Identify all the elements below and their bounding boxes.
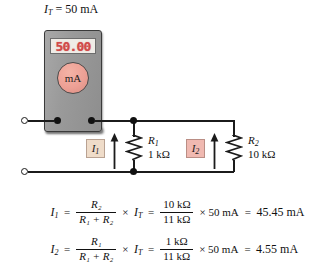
eq1-equals-1: = xyxy=(61,206,73,218)
eq1-lhs-sub: 1 xyxy=(55,210,59,219)
circuit-terminal-bottom-icon xyxy=(21,168,28,175)
i2-subscript: 2 xyxy=(195,146,199,155)
r1-subscript: 1 xyxy=(155,139,159,148)
eq2-times-1: × xyxy=(119,243,131,255)
eq2-equals-3: = xyxy=(241,243,253,255)
equation-i1: I1 = R₂ R₁ + R₂ × IT = 10 kΩ 11 kΩ × 50 … xyxy=(48,199,307,225)
eq2-equals-2: = xyxy=(145,243,157,255)
r2-name: R xyxy=(248,134,255,146)
wire-bottom-left-segment xyxy=(28,171,134,173)
r1-value: 1 kΩ xyxy=(148,148,170,161)
meter-terminal-left-icon xyxy=(54,117,61,124)
resistor-r1-label: R1 1 kΩ xyxy=(148,134,170,161)
eq1-times-2: × 50 mA xyxy=(197,206,242,218)
title-current-value: = 50 mA xyxy=(52,2,98,16)
meter-display-screen: 50.00 xyxy=(50,38,96,54)
eq1-frac2-denominator: 11 kΩ xyxy=(160,212,193,226)
eq2-fraction-2: 1 kΩ 11 kΩ xyxy=(160,236,193,262)
wire-r2-bottom-lead xyxy=(233,160,235,172)
eq1-result: 45.45 mA xyxy=(254,205,307,220)
eq1-it-sub: T xyxy=(138,210,142,219)
eq2-frac2-numerator: 1 kΩ xyxy=(163,236,191,249)
eq1-equals-3: = xyxy=(242,206,254,218)
resistor-r2-label: R2 10 kΩ xyxy=(248,134,275,161)
r2-subscript: 2 xyxy=(255,139,259,148)
wire-top-right-segment xyxy=(94,120,234,122)
eq1-frac1-numerator: R₂ xyxy=(88,199,105,212)
circuit-terminal-top-icon xyxy=(21,117,28,124)
current-arrow-i1-icon xyxy=(110,133,119,169)
meter-reading-value: 50.00 xyxy=(55,40,90,53)
figure-title: IT = 50 mA xyxy=(44,2,98,17)
eq2-fraction-1: R₁ R₁ + R₂ xyxy=(76,236,116,262)
r2-value: 10 kΩ xyxy=(248,148,275,161)
current-divider-figure: IT = 50 mA 50.00 mA R1 1 kΩ R2 10 kΩ xyxy=(0,0,314,274)
equation-i2: I2 = R₁ R₁ + R₂ × IT = 1 kΩ 11 kΩ × 50 m… xyxy=(48,236,301,262)
resistor-r2-symbol xyxy=(225,135,243,161)
junction-node-bottom-icon xyxy=(130,168,137,175)
eq1-fraction-2: 10 kΩ 11 kΩ xyxy=(160,199,193,225)
meter-dial-label: mA xyxy=(65,72,82,84)
eq1-frac1-denominator: R₁ + R₂ xyxy=(76,212,116,226)
resistor-r1-symbol xyxy=(125,135,143,161)
eq1-fraction-1: R₂ R₁ + R₂ xyxy=(76,199,116,225)
eq1-times-1: × xyxy=(119,206,131,218)
eq1-frac2-numerator: 10 kΩ xyxy=(160,199,193,212)
current-label-i1: I1 xyxy=(86,139,105,158)
eq2-times-2: × 50 mA xyxy=(196,243,241,255)
eq2-frac1-denominator: R₁ + R₂ xyxy=(76,249,116,263)
eq2-it-sub: T xyxy=(138,247,142,256)
eq1-equals-2: = xyxy=(145,206,157,218)
eq2-equals-1: = xyxy=(61,243,73,255)
eq2-result: 4.55 mA xyxy=(254,242,301,257)
wire-bottom-right-segment xyxy=(134,171,234,173)
meter-range-dial[interactable]: mA xyxy=(57,62,89,94)
current-arrow-i2-icon xyxy=(210,133,219,169)
current-label-i2: I2 xyxy=(186,139,205,158)
eq2-frac1-numerator: R₁ xyxy=(88,236,105,249)
wire-top-left-segment xyxy=(28,120,54,122)
i1-subscript: 1 xyxy=(95,146,99,155)
r1-name: R xyxy=(148,134,155,146)
eq2-lhs-sub: 2 xyxy=(55,247,59,256)
junction-node-top-icon xyxy=(130,117,137,124)
eq2-frac2-denominator: 11 kΩ xyxy=(160,249,193,263)
